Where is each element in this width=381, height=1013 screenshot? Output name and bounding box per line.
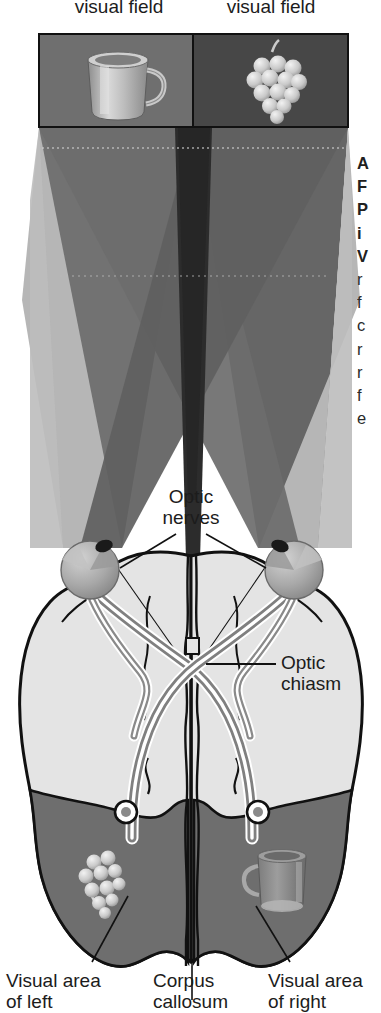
- caption-heading: AFPiV: [357, 152, 381, 268]
- label-visual-area-left-line1: Visual area: [6, 970, 101, 991]
- label-optic-nerves-line1: Optic: [151, 486, 231, 507]
- lgn-right-core: [253, 807, 263, 817]
- lgn-left-core: [121, 807, 131, 817]
- scene-panels: [39, 34, 348, 127]
- figure-canvas: visual field visual field: [0, 0, 381, 1013]
- brain-outline-group: [20, 552, 363, 966]
- label-corpus-callosum-line1: Corpus: [153, 970, 214, 991]
- label-optic-chiasm-line2: chiasm: [281, 673, 341, 694]
- label-optic-nerves-line2: nerves: [151, 507, 231, 528]
- label-visual-area-right-line1: Visual area: [268, 970, 363, 991]
- label-optic-chiasm-line1: Optic: [281, 652, 325, 673]
- label-visual-area-right-line2: of right: [268, 991, 326, 1012]
- label-visual-area-left-line2: of left: [6, 991, 52, 1012]
- corpus-callosum-body: [186, 638, 199, 654]
- label-corpus-callosum-line2: callosum: [153, 991, 228, 1012]
- visual-area-left: [30, 790, 188, 966]
- figure-caption-column: AFPiV rfcrrfelfchirlt: [357, 152, 381, 432]
- caption-body: rfcrrfelfchirlt: [357, 268, 381, 432]
